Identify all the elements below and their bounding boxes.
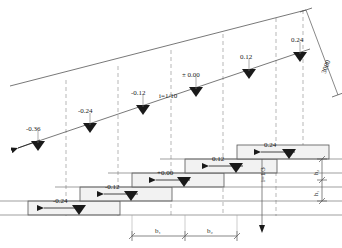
step-level-label-4: 0.12 <box>212 155 224 163</box>
dimension-label-h1: h₁ <box>313 191 319 196</box>
horizontal-dimension-chain <box>129 215 240 241</box>
vertical-dimension-chain <box>317 156 327 204</box>
lower-slope-label: i=1/3 <box>259 167 267 182</box>
engineering-section-drawing: -0.36 -0.24 -0.12 ± 0.00 0.12 0.24 -0.24… <box>0 0 342 248</box>
ground-level-label-2: -0.24 <box>78 107 93 115</box>
upper-slope-line <box>10 10 306 86</box>
ground-level-label-1: -0.36 <box>26 125 41 133</box>
dimension-label-h2: h₂ <box>313 170 319 175</box>
dimension-label-b2: b₂ <box>207 227 213 235</box>
ground-level-label-4: ± 0.00 <box>182 71 200 79</box>
ground-level-label-5: 0.12 <box>240 53 252 61</box>
step-level-label-2: -0.12 <box>105 183 120 191</box>
dimension-label-b1: b₁ <box>155 227 161 235</box>
step-level-label-5: 0.24 <box>264 141 276 149</box>
step-level-label-3: +0.00 <box>157 169 173 177</box>
ground-level-label-3: -0.12 <box>131 89 146 97</box>
ground-level-label-6: 0.24 <box>291 36 303 44</box>
upper-slope-label: i=1/10 <box>159 92 177 100</box>
step-level-label-1: -0.24 <box>53 197 68 205</box>
ground-elevation-markers <box>31 52 307 151</box>
